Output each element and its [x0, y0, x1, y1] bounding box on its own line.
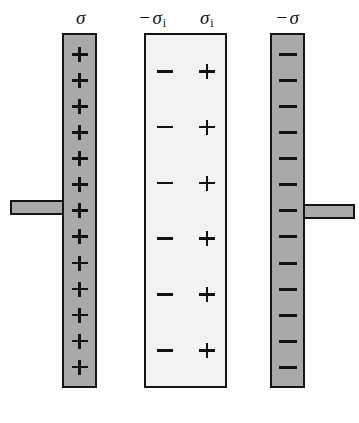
negative-charge-icon	[279, 281, 297, 297]
negative-charge-icon	[279, 46, 297, 62]
positive-charge-icon	[71, 98, 89, 114]
negative-charge-icon	[279, 150, 297, 166]
right-conductor-plate	[270, 33, 305, 388]
dielectric-dipole-row	[146, 286, 225, 302]
negative-charge-icon	[156, 342, 173, 358]
dielectric-dipole-row	[146, 342, 225, 358]
positive-charge-icon	[71, 281, 89, 297]
positive-charge-icon	[71, 255, 89, 271]
label-right-plate-charge-density: −σ	[264, 8, 312, 29]
negative-charge-icon	[279, 202, 297, 218]
positive-charge-icon	[198, 286, 215, 302]
negative-charge-icon	[279, 98, 297, 114]
positive-charge-icon	[71, 176, 89, 192]
positive-charge-icon	[71, 307, 89, 323]
dielectric-dipole-row	[146, 175, 225, 191]
label-left-plate-charge-density: σ	[62, 8, 98, 29]
label-left-plate-symbol: σ	[76, 7, 86, 28]
label-induced-positive-symbol: σ	[200, 7, 210, 28]
right-terminal-lead	[303, 204, 355, 219]
positive-charge-icon	[198, 230, 215, 246]
dielectric-dipole-row	[146, 63, 225, 79]
negative-charge-icon	[279, 176, 297, 192]
positive-charge-icon	[198, 342, 215, 358]
dielectric-dipole-row	[146, 119, 225, 135]
left-terminal-lead	[10, 200, 64, 215]
positive-charge-icon	[71, 228, 89, 244]
positive-charge-icon	[198, 119, 215, 135]
negative-charge-icon	[156, 119, 173, 135]
label-right-plate-sign: −	[276, 7, 287, 28]
positive-charge-icon	[71, 124, 89, 140]
capacitor-dielectric-figure: σ −σi σi −σ	[0, 0, 359, 423]
positive-charge-icon	[71, 46, 89, 62]
negative-charge-icon	[279, 333, 297, 349]
dielectric-dipole-row	[146, 230, 225, 246]
negative-charge-icon	[279, 228, 297, 244]
positive-charge-icon	[71, 72, 89, 88]
negative-charge-icon	[279, 72, 297, 88]
label-induced-negative-symbol: σ	[153, 7, 163, 28]
positive-charge-icon	[71, 150, 89, 166]
positive-charge-icon	[198, 63, 215, 79]
dielectric-slab	[144, 33, 227, 388]
negative-charge-icon	[156, 230, 173, 246]
label-induced-positive-subscript: i	[210, 16, 214, 30]
negative-charge-icon	[156, 175, 173, 191]
label-induced-negative-subscript: i	[163, 16, 167, 30]
label-induced-positive-charge-density: σi	[186, 8, 226, 29]
negative-charge-icon	[279, 124, 297, 140]
negative-charge-icon	[156, 286, 173, 302]
positive-charge-icon	[198, 175, 215, 191]
positive-charge-icon	[71, 359, 89, 375]
left-conductor-plate	[62, 33, 97, 388]
negative-charge-icon	[279, 255, 297, 271]
label-induced-negative-sign: −	[140, 7, 151, 28]
negative-charge-icon	[156, 63, 173, 79]
negative-charge-icon	[279, 307, 297, 323]
positive-charge-icon	[71, 202, 89, 218]
negative-charge-icon	[279, 359, 297, 375]
label-induced-negative-charge-density: −σi	[131, 8, 175, 29]
positive-charge-icon	[71, 333, 89, 349]
label-right-plate-symbol: σ	[289, 7, 299, 28]
